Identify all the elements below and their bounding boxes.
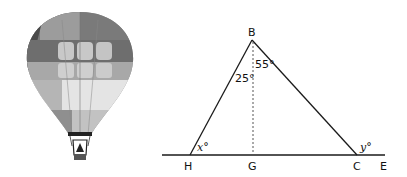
triangle-diagram: B H G C E 25° 55° x° y° [0,0,407,177]
point-label-B: B [248,26,256,39]
angle-label-x: x° [197,141,209,154]
point-label-H: H [184,160,192,173]
angle-label-55: 55° [255,58,275,71]
point-label-C: C [353,160,361,173]
side-BH [190,40,252,155]
angle-label-25: 25° [235,72,255,85]
point-label-G: G [248,160,257,173]
angle-label-y: y° [359,141,372,154]
point-label-E: E [380,160,387,173]
